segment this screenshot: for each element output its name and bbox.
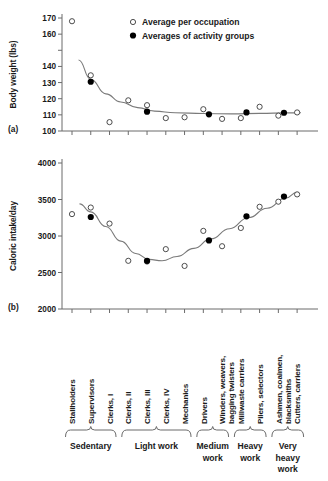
trend-curve-b <box>80 192 298 261</box>
data-point-open-a-5 <box>163 115 168 120</box>
y-tick-label-b-1: 2500 <box>38 269 57 278</box>
y-tick-label-a-4: 140 <box>42 62 56 71</box>
group-label-1: Light work <box>135 441 179 451</box>
data-point-open-b-7 <box>201 228 206 233</box>
data-point-filled-a-4 <box>281 110 287 116</box>
data-point-open-b-0 <box>69 212 74 217</box>
y-tick-label-b-2: 3000 <box>38 232 57 241</box>
data-point-open-b-3 <box>126 258 131 263</box>
data-point-open-b-2 <box>107 221 112 226</box>
occupation-label-8: bagging twisters <box>227 361 236 424</box>
data-point-open-a-9 <box>238 115 243 120</box>
data-point-open-a-3 <box>126 98 131 103</box>
y-tick-label-b-3: 3500 <box>38 196 57 205</box>
group-label-2: Medium <box>196 441 229 451</box>
y-tick-label-a-1: 110 <box>43 111 57 120</box>
group-bracket-3 <box>234 427 266 438</box>
legend: Average per occupationAverages of activi… <box>130 17 255 41</box>
occupation-label-3: Clerks, II <box>124 392 133 424</box>
panel-label-b: (b) <box>8 302 19 312</box>
occupation-label-0: Stallholders <box>68 379 77 424</box>
group-label-4: heavy <box>276 453 301 463</box>
data-point-filled-b-3 <box>243 213 249 219</box>
data-point-open-a-10 <box>257 104 262 109</box>
data-point-open-b-1 <box>88 205 93 210</box>
data-point-open-b-10 <box>257 204 262 209</box>
data-point-open-b-5 <box>163 247 168 252</box>
y-tick-label-a-6: 160 <box>42 30 56 39</box>
y-tick-label-a-2: 120 <box>42 95 56 104</box>
group-label-3: Heavy <box>238 441 264 451</box>
group-bracket-1 <box>122 427 191 438</box>
data-point-filled-a-3 <box>243 109 249 115</box>
data-point-filled-b-4 <box>281 193 287 199</box>
data-point-open-a-0 <box>69 19 74 24</box>
data-point-filled-a-1 <box>144 109 150 115</box>
data-point-open-a-4 <box>144 103 149 108</box>
panel-b: 20002500300035004000Caloric intake/day(b… <box>8 159 318 314</box>
data-point-filled-b-0 <box>88 214 94 220</box>
group-bracket-2 <box>197 427 229 438</box>
occupation-label-2: Clerks, I <box>106 394 115 424</box>
data-point-filled-a-2 <box>206 111 212 117</box>
x-axis-occupation-labels: StallholdersSupervisorsClerks, IClerks, … <box>68 355 302 424</box>
legend-marker-open <box>130 19 135 24</box>
group-bracket-0 <box>66 427 117 438</box>
y-axis-title-a: Body weight (lbs) <box>8 40 18 108</box>
data-point-open-b-8 <box>219 244 224 249</box>
data-point-filled-b-1 <box>144 258 150 264</box>
occupation-label-11: Ashmen, coalmen, <box>275 355 284 424</box>
figure-container: 100110120130140160170Body weight (lbs)(a… <box>0 0 328 481</box>
occupation-label-7: Drivers <box>200 397 209 424</box>
y-axis-title-b: Caloric intake/day <box>8 201 18 271</box>
data-point-open-b-6 <box>182 263 187 268</box>
occupation-label-1: Supervisors <box>87 378 96 424</box>
occupation-label-11: blacksmiths <box>284 378 293 424</box>
group-label-3: work <box>239 453 260 463</box>
data-point-filled-a-0 <box>88 79 94 85</box>
y-tick-label-b-4: 4000 <box>38 159 57 168</box>
occupation-label-8: Winders, weavers, <box>218 356 227 424</box>
data-point-filled-b-2 <box>206 237 212 243</box>
y-tick-label-a-7: 170 <box>42 14 56 23</box>
occupation-label-6: Mechanics <box>181 383 190 424</box>
activity-group-brackets: SedentaryLight workMediumworkHeavyworkVe… <box>66 427 304 475</box>
occupation-label-12: Cutters, carriers <box>293 363 302 424</box>
occupation-label-9: Millwaste carriers <box>237 358 246 424</box>
legend-marker-filled <box>130 32 136 38</box>
y-tick-label-a-0: 100 <box>42 127 56 136</box>
group-label-4: Very <box>279 441 297 451</box>
group-label-4: work <box>277 464 298 474</box>
occupation-label-4: Clerks, III <box>143 390 152 424</box>
data-point-open-a-8 <box>219 116 224 121</box>
group-label-2: work <box>202 453 223 463</box>
data-point-open-a-7 <box>201 107 206 112</box>
trend-curve-a <box>79 60 301 114</box>
group-label-0: Sedentary <box>70 441 112 451</box>
data-point-open-a-11 <box>276 113 281 118</box>
panel-label-a: (a) <box>8 124 18 134</box>
data-point-open-b-9 <box>238 225 243 230</box>
occupation-label-5: Clerks, IV <box>162 388 171 424</box>
data-point-open-b-11 <box>276 199 281 204</box>
data-point-open-a-12 <box>295 110 300 115</box>
y-tick-label-b-0: 2000 <box>38 305 57 314</box>
legend-label-0: Average per occupation <box>142 17 240 27</box>
occupation-label-10: Pilers, selectors <box>256 364 265 424</box>
y-tick-label-a-3: 130 <box>42 79 56 88</box>
data-point-open-a-1 <box>88 73 93 78</box>
figure-svg: 100110120130140160170Body weight (lbs)(a… <box>0 0 328 481</box>
data-point-open-b-12 <box>295 192 300 197</box>
legend-label-1: Averages of activity groups <box>142 31 255 41</box>
data-point-open-a-6 <box>182 115 187 120</box>
data-point-open-a-2 <box>107 120 112 125</box>
group-bracket-4 <box>272 427 304 438</box>
